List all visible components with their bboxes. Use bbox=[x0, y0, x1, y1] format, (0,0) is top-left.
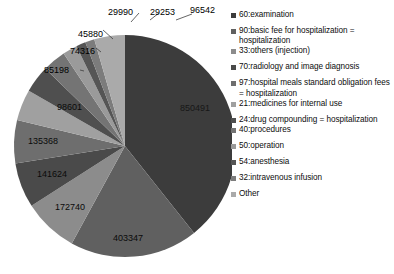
legend-item[interactable]: 40:procedures bbox=[231, 125, 394, 135]
pie-label-29990: 29990 bbox=[108, 8, 133, 17]
pie-label-45880: 45880 bbox=[78, 30, 103, 39]
legend-item-label: 33:others (injection) bbox=[239, 46, 310, 56]
pie-label-172740: 172740 bbox=[55, 203, 85, 212]
legend-item-label: 97:hospital meals standard obligation fe… bbox=[239, 78, 394, 98]
legend-item-label: 21:medicines for internal use bbox=[239, 99, 342, 109]
legend-item-label: Other bbox=[239, 189, 259, 199]
legend-item-label: 50:operation bbox=[239, 141, 284, 151]
pie-chart-figure: 29990 29253 96542 45880 74316 85198 9860… bbox=[0, 0, 394, 274]
legend-item[interactable]: 90:basic fee for hospitalization = hospi… bbox=[231, 26, 394, 46]
chart-legend: 60:examination90:basic fee for hospitali… bbox=[231, 10, 394, 272]
legend-item-label: 90:basic fee for hospitalization = hospi… bbox=[239, 26, 394, 46]
legend-swatch-icon bbox=[231, 128, 236, 133]
legend-swatch-icon bbox=[231, 49, 236, 54]
legend-swatch-icon bbox=[231, 118, 236, 123]
legend-swatch-icon bbox=[231, 144, 236, 149]
legend-item[interactable]: 60:examination bbox=[231, 10, 394, 20]
legend-swatch-icon bbox=[231, 65, 236, 70]
legend-item-label: 40:procedures bbox=[239, 125, 291, 135]
legend-swatch-icon bbox=[231, 160, 236, 165]
legend-item[interactable]: 54:anesthesia bbox=[231, 157, 394, 167]
legend-item[interactable]: 32:intravenous infusion bbox=[231, 173, 394, 183]
pie-label-141624: 141624 bbox=[37, 170, 67, 179]
legend-swatch-icon bbox=[231, 102, 236, 107]
pie-label-85198: 85198 bbox=[44, 66, 69, 75]
pie-label-403347: 403347 bbox=[113, 234, 143, 243]
legend-item[interactable]: 33:others (injection) bbox=[231, 46, 394, 56]
pie-label-29253: 29253 bbox=[150, 8, 175, 17]
legend-item-label: 60:examination bbox=[239, 10, 294, 20]
legend-swatch-icon bbox=[231, 176, 236, 181]
legend-swatch-icon bbox=[231, 81, 236, 86]
legend-item[interactable]: 50:operation bbox=[231, 141, 394, 151]
legend-item[interactable]: 24:drug compounding = hospitalization bbox=[231, 115, 394, 125]
legend-item-label: 70:radiology and image diagnosis bbox=[239, 62, 359, 72]
legend-item[interactable]: 21:medicines for internal use bbox=[231, 99, 394, 109]
legend-item-label: 32:intravenous infusion bbox=[239, 173, 322, 183]
pie-label-850491: 850491 bbox=[180, 104, 210, 113]
legend-item[interactable]: Other bbox=[231, 189, 394, 199]
legend-item[interactable]: 70:radiology and image diagnosis bbox=[231, 62, 394, 72]
legend-item-label: 24:drug compounding = hospitalization bbox=[239, 115, 378, 125]
legend-item-label: 54:anesthesia bbox=[239, 157, 289, 167]
pie-label-96542: 96542 bbox=[190, 6, 215, 15]
pie-plot-area: 29990 29253 96542 45880 74316 85198 9860… bbox=[0, 0, 232, 274]
legend-swatch-icon bbox=[231, 29, 236, 34]
pie-label-135368: 135368 bbox=[28, 137, 58, 146]
legend-swatch-icon bbox=[231, 192, 236, 197]
pie-label-74316: 74316 bbox=[70, 47, 95, 56]
legend-swatch-icon bbox=[231, 13, 236, 18]
pie-label-98601: 98601 bbox=[57, 103, 82, 112]
legend-item[interactable]: 97:hospital meals standard obligation fe… bbox=[231, 78, 394, 98]
